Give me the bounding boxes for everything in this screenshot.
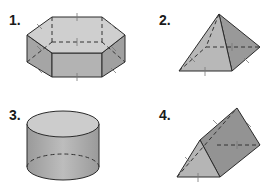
figures-canvas: [0, 0, 280, 189]
triangular-prism-figure: [177, 108, 260, 182]
hexagonal-prism-figure: [27, 13, 125, 81]
cylinder-figure: [27, 111, 99, 180]
square-pyramid-figure: [179, 14, 260, 76]
